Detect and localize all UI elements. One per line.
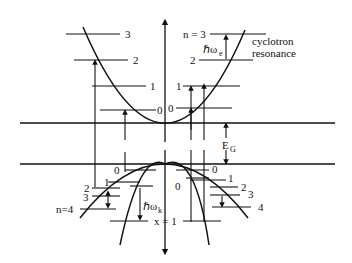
heavy-hole-band-curve (80, 164, 248, 218)
cb-right-label-0: 0 (168, 102, 174, 114)
cyclotron-label: cyclotron (252, 35, 294, 47)
hbar-omega-k-label: ℏω (143, 200, 157, 212)
omega-e-subscript: e (219, 49, 223, 58)
cb-left-label-3: 3 (125, 28, 131, 40)
cb-right-label-3: n = 3 (183, 28, 206, 40)
vb-right-label-1: 1 (228, 172, 234, 184)
cb-left-label-0: 0 (157, 104, 163, 116)
energy-gap-label: E (222, 139, 229, 151)
vb-right-label-0: 0 (212, 163, 218, 175)
vb-right-label-4: 4 (258, 201, 264, 213)
vb-right-label-0b: 0 (175, 180, 181, 192)
cb-right-label-1: 1 (176, 80, 182, 92)
cb-right-label-2: 2 (190, 54, 196, 66)
vb-left-label-3: 3 (83, 191, 89, 203)
vb-left-label-1: 1 (104, 176, 110, 188)
cb-left-label-1: 1 (150, 80, 156, 92)
omega-k-subscript: k (158, 206, 162, 215)
vb-left-label-0: 0 (114, 164, 120, 176)
cb-left-label-2: 2 (133, 54, 139, 66)
conduction-band-curve (83, 27, 245, 123)
x-equals-1-label: x = 1 (154, 215, 177, 227)
energy-gap-subscript: G (230, 145, 236, 154)
hbar-omega-e-label: ℏω (203, 43, 217, 55)
vb-right-label-3: 3 (248, 188, 254, 200)
vb-left-label-4: n=4 (56, 203, 74, 215)
resonance-label: resonance (252, 47, 296, 59)
band-structure-diagram: 3 2 1 0 n = 3 2 1 0 ℏω e cyclotron reson… (0, 0, 352, 263)
vb-right-label-2: 2 (241, 181, 247, 193)
